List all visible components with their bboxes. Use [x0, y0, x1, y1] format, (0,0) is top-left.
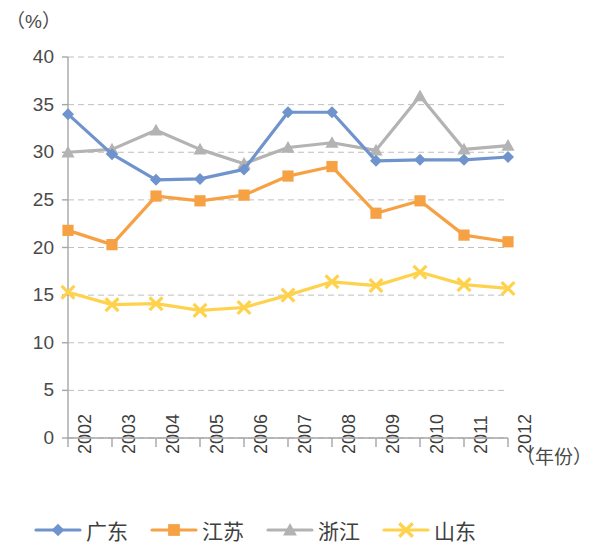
- legend-item-浙江[interactable]: 浙江: [266, 515, 360, 545]
- data-point-marker: [458, 230, 469, 241]
- legend-marker-triangle-icon: [266, 520, 314, 540]
- x-axis-title: （年份）: [516, 442, 592, 469]
- data-point-marker: [52, 524, 65, 537]
- legend-marker-diamond-icon: [34, 520, 82, 540]
- data-point-marker: [502, 151, 514, 163]
- series-江苏: [62, 161, 513, 250]
- legend-label: 江苏: [202, 515, 244, 545]
- legend-marker-cross-icon: [382, 520, 430, 540]
- data-point-marker: [106, 239, 117, 250]
- data-point-marker: [238, 190, 249, 201]
- data-point-marker: [326, 161, 337, 172]
- legend-item-山东[interactable]: 山东: [382, 515, 476, 545]
- data-point-marker: [62, 225, 73, 236]
- series-山东: [62, 266, 515, 317]
- series-line: [68, 96, 508, 164]
- data-point-marker: [414, 195, 425, 206]
- series-浙江: [61, 89, 514, 168]
- data-point-marker: [194, 173, 206, 185]
- legend-label: 浙江: [318, 515, 360, 545]
- legend-label: 山东: [434, 515, 476, 545]
- data-point-marker: [149, 124, 162, 136]
- legend-marker-square-icon: [150, 520, 198, 540]
- data-point-marker: [414, 154, 426, 166]
- data-point-marker: [413, 89, 426, 101]
- chart-legend: 广东江苏浙江山东: [0, 513, 604, 547]
- data-point-marker: [458, 154, 470, 166]
- data-point-marker: [282, 170, 293, 181]
- data-point-marker: [370, 208, 381, 219]
- data-point-marker: [168, 524, 180, 536]
- data-point-marker: [194, 195, 205, 206]
- data-point-marker: [150, 190, 161, 201]
- legend-label: 广东: [86, 515, 128, 545]
- line-chart: （%） 0510152025303540 2002200320042005200…: [0, 0, 604, 547]
- data-point-marker: [502, 236, 513, 247]
- legend-item-广东[interactable]: 广东: [34, 515, 128, 545]
- legend-item-江苏[interactable]: 江苏: [150, 515, 244, 545]
- series-line: [68, 272, 508, 310]
- plot-area: [0, 0, 604, 547]
